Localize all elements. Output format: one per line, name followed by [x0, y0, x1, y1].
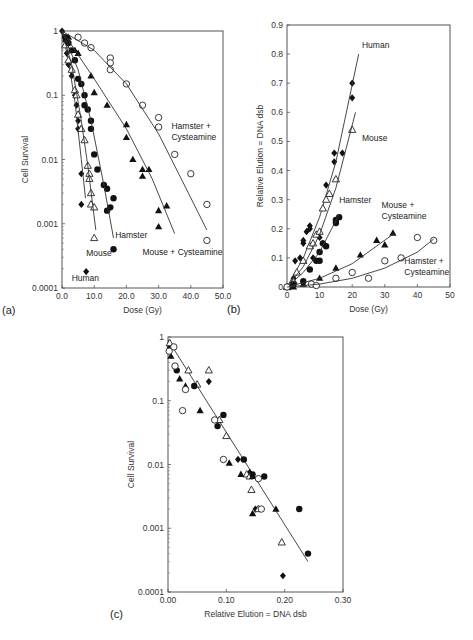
circle-open-marker: [171, 344, 177, 350]
triangle-open-marker: [349, 126, 356, 132]
triangle-filled-marker: [196, 407, 203, 413]
panel-label: (a): [2, 304, 15, 316]
series-hamster: [174, 367, 312, 557]
chart-b-elution-vs-dose: 0102030405000.10.20.30.40.50.60.70.80.9D…: [227, 20, 455, 315]
circle-filled-marker: [110, 246, 116, 252]
circle-open-marker: [204, 237, 210, 243]
circle-open-marker: [382, 258, 388, 264]
x-tick-label: 30.0: [150, 291, 167, 301]
diamond-filled-marker: [75, 117, 81, 124]
series-human: Human: [284, 40, 390, 290]
y-tick-label: 0.1: [152, 396, 164, 406]
triangle-filled-marker: [155, 207, 162, 213]
x-tick-label: 0.30: [335, 595, 352, 605]
chart-a-survival-vs-dose: 0.010.020.030.040.050.00.00010.0010.010.…: [2, 26, 232, 316]
series-label-line2: Cysteamine: [171, 132, 216, 142]
series-label: Mouse + Cysteamine: [143, 247, 223, 257]
triangle-open-marker: [223, 432, 230, 438]
y-tick-label: 0.001: [143, 523, 165, 533]
triangle-filled-marker: [373, 237, 380, 243]
series-mouse-cysteamine: Mouse + Cysteamine: [65, 33, 223, 256]
circle-filled-marker: [110, 195, 116, 201]
circle-open-marker: [365, 275, 371, 281]
circle-open-marker: [414, 234, 420, 240]
y-tick-label: 0.01: [41, 155, 58, 165]
y-axis-label: Relative Elution = DNA dsb: [255, 105, 265, 208]
series-label: Hamster +: [171, 121, 210, 131]
series-label: Hamster +: [404, 256, 443, 266]
triangle-filled-marker: [129, 156, 136, 162]
y-tick-label: 0.4: [271, 166, 283, 176]
series-label-line2: Cysteamine: [382, 211, 427, 221]
y-axis-label: Cell Survival: [20, 136, 30, 183]
x-tick-label: 50.0: [215, 291, 232, 301]
chart-c-survival-vs-elution: 0.000.100.200.300.00010.0010.010.11Relat…: [110, 332, 352, 620]
series-hamster: Hamster: [62, 34, 147, 252]
x-tick-label: 20.0: [118, 291, 135, 301]
circle-open-marker: [179, 407, 185, 413]
circle-filled-marker: [94, 166, 100, 172]
triangle-filled-marker: [91, 89, 98, 95]
y-tick-label: 0.5: [271, 136, 283, 146]
y-tick-label: 0.0001: [138, 587, 164, 597]
fit-curve: [287, 214, 339, 287]
triangle-open-marker: [205, 367, 212, 373]
series-label: Hamster: [115, 230, 147, 240]
y-tick-label: 1: [159, 332, 164, 342]
y-tick-label: 1: [53, 26, 58, 36]
x-tick-label: 50: [445, 290, 455, 300]
circle-open-marker: [313, 282, 319, 288]
circle-filled-marker: [191, 383, 197, 389]
panel-label: (b): [227, 303, 240, 315]
circle-filled-marker: [296, 506, 302, 512]
y-tick-label: 0: [278, 282, 283, 292]
x-tick-label: 20: [347, 290, 357, 300]
triangle-filled-marker: [357, 251, 364, 257]
triangle-open-marker: [278, 539, 285, 545]
diamond-filled-marker: [206, 378, 212, 385]
series-hamster: Hamster: [284, 195, 372, 291]
circle-open-marker: [188, 171, 194, 177]
circle-open-marker: [255, 475, 261, 481]
circle-open-marker: [155, 124, 161, 130]
circle-open-marker: [204, 201, 210, 207]
y-tick-label: 0.7: [271, 78, 283, 88]
series-label: Human: [362, 40, 390, 50]
triangle-filled-marker: [316, 274, 323, 280]
triangle-filled-marker: [176, 375, 183, 381]
triangle-open-marker: [319, 205, 326, 211]
series-label: Mouse: [86, 248, 112, 258]
triangle-open-marker: [91, 234, 98, 240]
x-tick-label: 0: [285, 290, 290, 300]
triangle-filled-marker: [139, 172, 146, 178]
circle-open-marker: [349, 269, 355, 275]
y-axis-label: Cell Survival: [126, 441, 136, 488]
y-tick-label: 0.6: [271, 107, 283, 117]
y-tick-label: 0.001: [37, 219, 59, 229]
circle-filled-marker: [220, 412, 226, 418]
circle-open-marker: [172, 151, 178, 157]
triangle-filled-marker: [237, 471, 244, 477]
circle-open-marker: [182, 386, 188, 392]
x-tick-label: 10.0: [86, 291, 103, 301]
triangle-filled-marker: [145, 166, 152, 172]
triangle-filled-marker: [155, 223, 162, 229]
diamond-filled-marker: [235, 456, 241, 463]
series-mouse-cysteamine: [167, 352, 279, 516]
x-tick-label: 40: [413, 290, 423, 300]
series-label: Mouse +: [382, 200, 415, 210]
circle-open-marker: [172, 363, 178, 369]
triangle-filled-marker: [139, 166, 146, 172]
y-tick-label: 0.1: [271, 253, 283, 263]
y-tick-label: 0.0001: [32, 283, 58, 293]
series-hamster-cysteamine: Hamster +Cysteamine: [75, 34, 217, 244]
x-axis-label: Dose (Gy): [349, 304, 388, 314]
circle-filled-marker: [91, 151, 97, 157]
y-tick-label: 0.01: [147, 460, 164, 470]
y-tick-label: 0.1: [46, 90, 58, 100]
circle-filled-marker: [305, 550, 311, 556]
series-hamster-cysteamine: Hamster +Cysteamine: [284, 234, 450, 290]
diamond-filled-marker: [280, 572, 286, 579]
circle-filled-marker: [214, 423, 220, 429]
circle-open-marker: [220, 456, 226, 462]
